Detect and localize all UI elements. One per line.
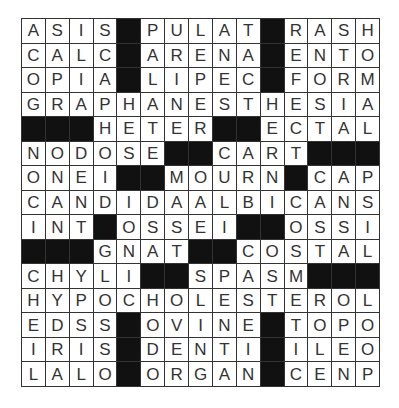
letter-cell: T xyxy=(237,19,260,43)
letter-cell: N xyxy=(189,338,212,362)
block-cell xyxy=(117,313,140,337)
letter-cell: C xyxy=(94,44,117,68)
block-cell xyxy=(117,338,140,362)
letter-cell: R xyxy=(165,44,188,68)
block-cell xyxy=(308,142,331,166)
letter-cell: T xyxy=(261,289,284,313)
block-cell xyxy=(237,117,260,141)
letter-cell: L xyxy=(213,191,236,215)
letter-cell: D xyxy=(46,313,69,337)
letter-cell: E xyxy=(213,68,236,92)
letter-cell: I xyxy=(285,338,308,362)
letter-cell: P xyxy=(70,289,93,313)
letter-cell: N xyxy=(261,166,284,190)
letter-cell: A xyxy=(189,191,212,215)
block-cell xyxy=(213,240,236,264)
letter-cell: A xyxy=(141,93,164,117)
letter-cell: P xyxy=(46,68,69,92)
letter-cell: T xyxy=(70,215,93,239)
letter-cell: A xyxy=(141,240,164,264)
letter-cell: N xyxy=(70,191,93,215)
letter-cell: O xyxy=(165,289,188,313)
letter-cell: I xyxy=(332,93,355,117)
letter-cell: A xyxy=(237,264,260,288)
letter-cell: H xyxy=(117,93,140,117)
letter-cell: A xyxy=(46,44,69,68)
block-cell xyxy=(356,264,379,288)
block-cell xyxy=(308,264,331,288)
block-cell xyxy=(165,142,188,166)
letter-cell: R xyxy=(46,338,69,362)
letter-cell: A xyxy=(22,19,45,43)
letter-cell: E xyxy=(213,289,236,313)
letter-cell: C xyxy=(285,362,308,386)
letter-cell: V xyxy=(165,313,188,337)
letter-cell: I xyxy=(70,68,93,92)
letter-cell: O xyxy=(332,289,355,313)
letter-cell: S xyxy=(285,240,308,264)
letter-cell: M xyxy=(165,166,188,190)
letter-cell: A xyxy=(46,191,69,215)
block-cell xyxy=(332,142,355,166)
letter-cell: S xyxy=(308,215,331,239)
block-cell xyxy=(70,240,93,264)
letter-cell: I xyxy=(213,215,236,239)
letter-cell: T xyxy=(308,240,331,264)
letter-cell: T xyxy=(285,142,308,166)
letter-cell: N xyxy=(308,44,331,68)
block-cell xyxy=(285,166,308,190)
block-cell xyxy=(117,68,140,92)
letter-cell: O xyxy=(356,44,379,68)
letter-cell: L xyxy=(356,240,379,264)
letter-cell: N xyxy=(46,215,69,239)
letter-cell: R xyxy=(189,117,212,141)
letter-cell: P xyxy=(189,68,212,92)
letter-cell: N xyxy=(237,362,260,386)
letter-cell: N xyxy=(332,191,355,215)
letter-cell: S xyxy=(332,215,355,239)
letter-cell: S xyxy=(94,19,117,43)
letter-cell: C xyxy=(285,191,308,215)
letter-cell: O xyxy=(94,142,117,166)
letter-cell: L xyxy=(94,264,117,288)
letter-cell: N xyxy=(213,313,236,337)
block-cell xyxy=(261,313,284,337)
letter-cell: N xyxy=(117,240,140,264)
block-cell xyxy=(213,117,236,141)
letter-cell: B xyxy=(237,191,260,215)
letter-cell: A xyxy=(46,362,69,386)
letter-cell: E xyxy=(332,338,355,362)
letter-cell: C xyxy=(22,44,45,68)
block-cell xyxy=(141,264,164,288)
block-cell xyxy=(117,44,140,68)
letter-cell: A xyxy=(237,44,260,68)
letter-cell: I xyxy=(70,19,93,43)
letter-cell: E xyxy=(237,313,260,337)
letter-cell: O xyxy=(94,362,117,386)
block-cell xyxy=(22,117,45,141)
block-cell xyxy=(117,19,140,43)
letter-cell: P xyxy=(213,264,236,288)
letter-cell: T xyxy=(213,338,236,362)
letter-cell: C xyxy=(308,166,331,190)
letter-cell: D xyxy=(141,191,164,215)
block-cell xyxy=(261,19,284,43)
letter-cell: A xyxy=(237,142,260,166)
letter-cell: L xyxy=(70,362,93,386)
letter-cell: O xyxy=(46,142,69,166)
letter-cell: I xyxy=(261,191,284,215)
block-cell xyxy=(22,240,45,264)
letter-cell: S xyxy=(237,289,260,313)
letter-cell: H xyxy=(356,19,379,43)
letter-cell: C xyxy=(213,142,236,166)
letter-cell: E xyxy=(189,215,212,239)
letter-cell: R xyxy=(46,93,69,117)
letter-cell: O xyxy=(22,68,45,92)
letter-cell: D xyxy=(94,191,117,215)
letter-cell: T xyxy=(332,44,355,68)
letter-cell: C xyxy=(237,240,260,264)
letter-cell: I xyxy=(117,264,140,288)
letter-cell: C xyxy=(285,117,308,141)
letter-cell: I xyxy=(165,68,188,92)
letter-cell: S xyxy=(141,215,164,239)
